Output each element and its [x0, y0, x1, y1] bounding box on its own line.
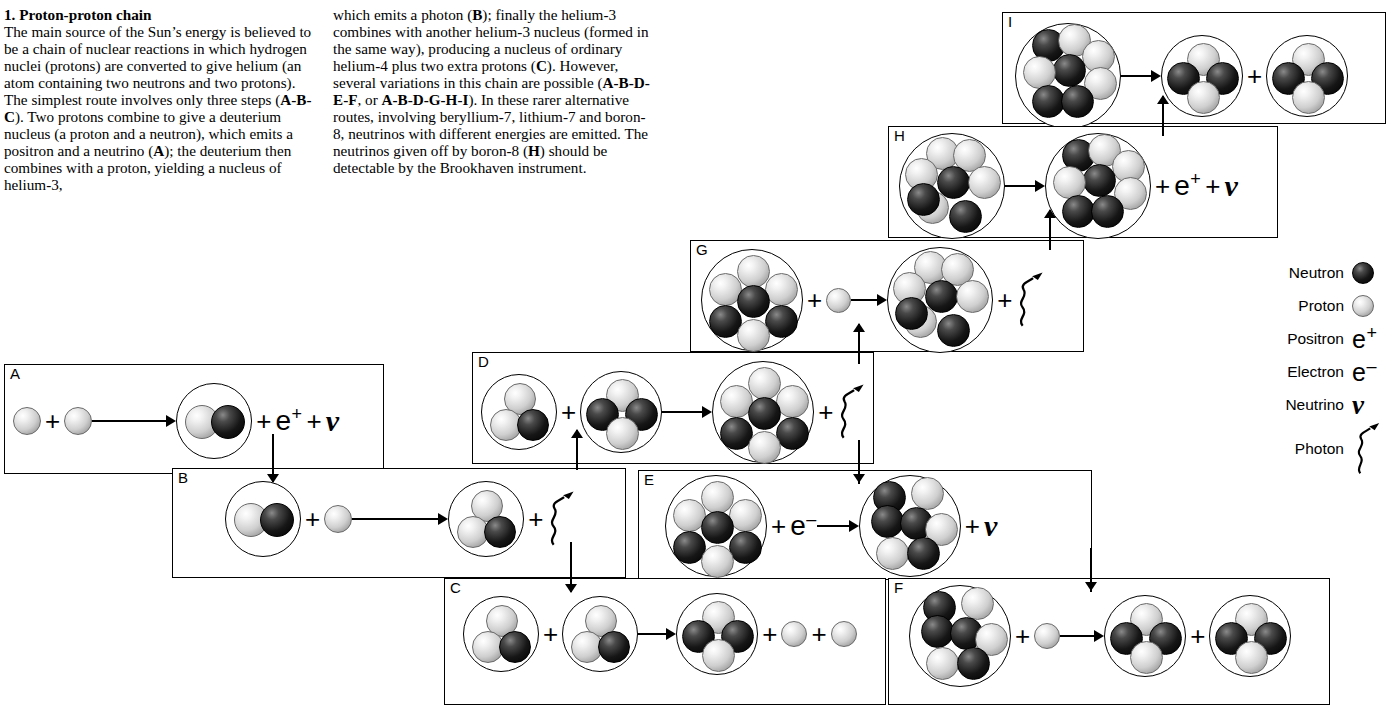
panel-label-A: A — [10, 366, 20, 381]
free-proton — [13, 407, 41, 435]
panel-H[interactable]: H + e+ + ν — [888, 126, 1278, 238]
proton-particle — [911, 477, 944, 510]
article-heading: 1. Proton-proton chain — [4, 6, 322, 23]
panel-C[interactable]: C + + + — [444, 578, 886, 705]
photon-symbol — [547, 491, 585, 547]
panel-D[interactable]: D + + — [472, 352, 874, 464]
neutron-particle — [1053, 54, 1086, 87]
nucleus-helium-3 — [562, 596, 638, 672]
nucleus-helium-4 — [1266, 35, 1348, 117]
legend-label: Positron — [1287, 330, 1344, 348]
nucleus-helium-3 — [481, 374, 557, 450]
nucleus-beryllium-8 — [1015, 23, 1121, 129]
proton-particle — [1292, 81, 1325, 114]
neutron-particle — [701, 511, 734, 544]
panel-I[interactable]: I + — [1002, 12, 1386, 124]
neutron-particle — [729, 531, 762, 564]
reaction-I: + — [1015, 23, 1348, 129]
neutron-particle — [211, 405, 245, 439]
panel-G[interactable]: G + + — [690, 240, 1084, 352]
neutron-particle — [949, 200, 982, 233]
reaction-arrow — [1060, 630, 1104, 642]
proton-particle — [1023, 56, 1056, 89]
proton-particle — [1130, 641, 1163, 674]
proton-particle — [737, 319, 770, 352]
free-proton — [324, 505, 352, 533]
panel-F[interactable]: F + + — [888, 578, 1330, 705]
proton-particle — [1187, 81, 1220, 114]
reaction-arrow — [92, 415, 176, 427]
panel-label-C: C — [450, 580, 461, 595]
proton-particle — [748, 431, 781, 464]
article-body-1: The main source of the Sun’s energy is b… — [4, 23, 322, 193]
neutron-particle — [765, 305, 798, 338]
proton-particle — [606, 417, 639, 450]
reaction-H: + e+ + ν — [899, 133, 1238, 239]
legend-row: Neutrino ν — [1238, 394, 1386, 416]
legend-label: Neutrino — [1285, 396, 1344, 414]
nucleus-beryllium-7 — [665, 475, 767, 577]
article-column-1: 1. Proton-proton chain The main source o… — [4, 6, 322, 193]
article-column-2: which emits a photon (B); finally the he… — [333, 6, 655, 176]
panel-A[interactable]: A + + e+ + ν — [4, 364, 384, 474]
reaction-E: + e– + ν — [665, 475, 997, 577]
neutron-particle — [1352, 262, 1374, 284]
legend-label: Electron — [1287, 363, 1344, 381]
free-proton — [826, 288, 851, 313]
reaction-arrow — [817, 520, 859, 532]
positron-term: e+ — [275, 407, 302, 435]
neutron-particle — [517, 409, 549, 441]
reaction-F: + + — [909, 585, 1291, 687]
nucleus-beryllium-8 — [1045, 133, 1151, 239]
free-proton — [831, 621, 857, 647]
reaction-C: + + + — [463, 593, 857, 675]
free-proton — [781, 621, 807, 647]
reaction-arrow — [851, 294, 887, 306]
nucleus-helium-4 — [1161, 35, 1243, 117]
nucleus-helium-4 — [580, 371, 662, 453]
legend-row: Positron e+ — [1238, 328, 1386, 350]
panel-label-I: I — [1008, 14, 1012, 29]
proton-particle — [926, 647, 959, 680]
neutron-particle — [776, 417, 809, 450]
neutron-particle — [499, 631, 531, 663]
article-body-2: which emits a photon (B); finally the he… — [333, 6, 655, 176]
nucleus-helium-4 — [1104, 595, 1186, 677]
nucleus-boron-8 — [887, 247, 993, 353]
legend-row: Neutron — [1238, 262, 1386, 284]
neutron-particle — [895, 297, 928, 330]
free-proton — [1034, 623, 1060, 649]
proton-particle — [968, 166, 1001, 199]
neutron-icon — [1352, 262, 1386, 284]
reaction-arrow — [1121, 70, 1161, 82]
proton-particle — [1235, 641, 1268, 674]
neutron-particle — [484, 516, 516, 548]
nucleus-lithium-7 — [909, 585, 1011, 687]
nucleus-helium-4 — [676, 593, 758, 675]
neutron-particle — [937, 314, 970, 347]
neutrino-term: ν — [984, 512, 997, 540]
photon-symbol — [1016, 272, 1054, 328]
reaction-D: + + — [481, 361, 875, 463]
neutron-particle — [748, 397, 781, 430]
legend-label: Photon — [1295, 440, 1344, 458]
neutrino-term: ν — [1224, 172, 1237, 200]
photon-symbol — [1352, 423, 1386, 475]
photon-symbol — [837, 384, 875, 440]
neutron-particle — [1091, 195, 1124, 228]
neutron-particle — [737, 285, 770, 318]
proton-icon — [1352, 295, 1386, 317]
nucleus-helium-3 — [463, 596, 539, 672]
neutron-particle — [1061, 85, 1094, 118]
legend-row: Electron e– — [1238, 361, 1386, 383]
panel-label-B: B — [178, 470, 188, 485]
legend-row: Photon — [1238, 438, 1386, 460]
panel-E[interactable]: E + e– + ν — [638, 470, 1092, 580]
nucleus-deuterium — [176, 383, 252, 459]
panel-B[interactable]: B + + — [172, 468, 626, 578]
panel-label-E: E — [644, 472, 654, 487]
reaction-arrow — [352, 513, 448, 525]
legend-label: Neutron — [1289, 264, 1344, 282]
reaction-arrow — [662, 406, 712, 418]
reaction-arrow — [638, 628, 676, 640]
